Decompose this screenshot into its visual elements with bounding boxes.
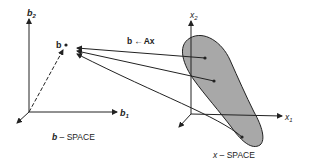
b-vector-dashed xyxy=(29,50,63,112)
x1-axis-label: x1 xyxy=(284,112,293,123)
b1-axis-label: b1 xyxy=(120,108,130,119)
b-point-label: b xyxy=(56,40,62,50)
x-space-caption: x – SPACE xyxy=(212,150,255,160)
x-space: x2 x1 x – SPACE xyxy=(179,10,293,160)
x2-axis-label: x2 xyxy=(189,10,198,21)
feasible-region xyxy=(182,35,262,146)
b-space-caption: b – SPACE xyxy=(52,132,95,142)
b3-axis xyxy=(17,112,29,123)
b-point xyxy=(64,43,67,46)
mapping-label: b←Ax xyxy=(127,36,155,46)
x3-axis xyxy=(179,114,191,127)
b-space: b2 b1 b b – SPACE xyxy=(17,8,130,142)
b2-axis-label: b2 xyxy=(27,8,37,19)
diagram-canvas: b2 b1 b b – SPACE b←Ax x2 x1 x – SPACE xyxy=(0,0,309,167)
